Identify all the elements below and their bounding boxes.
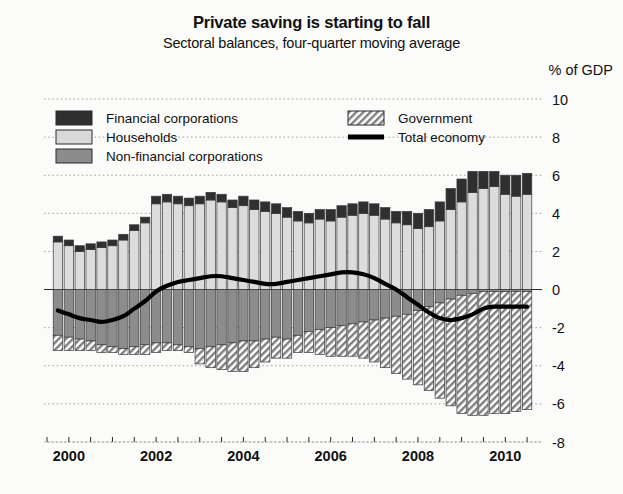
bar-segment-government-13 (195, 349, 204, 364)
bar-segment-financial-5 (108, 240, 117, 246)
bar-segment-financial-18 (250, 200, 259, 210)
bar-segment-households-18 (250, 210, 259, 290)
bar-segment-households-12 (184, 206, 193, 290)
x-tick-label-2010: 2010 (489, 448, 521, 464)
bar-segment-government-20 (271, 337, 280, 358)
bar-segment-government-25 (326, 328, 335, 357)
y-tick-label-10: 10 (552, 92, 568, 108)
bar-segment-government-28 (359, 322, 368, 358)
bar-segment-nonfinancial-4 (97, 290, 106, 345)
bar-segment-government-32 (402, 314, 411, 379)
bar-segment-nonfinancial-30 (381, 290, 390, 319)
bar-segment-nonfinancial-37 (457, 290, 466, 296)
bar-segment-households-1 (64, 246, 73, 290)
bar-segment-households-20 (271, 213, 280, 289)
bar-segment-households-8 (141, 223, 150, 290)
legend-label-nonfinancial: Non-financial corporations (106, 149, 263, 164)
bar-segment-financial-42 (511, 175, 520, 196)
bar-segment-financial-31 (391, 211, 400, 222)
legend-swatch-households (56, 130, 92, 144)
bar-segment-government-22 (293, 335, 302, 352)
bar-segment-government-3 (86, 341, 95, 351)
bar-segment-nonfinancial-22 (293, 290, 302, 336)
bar-segment-financial-4 (97, 242, 106, 248)
legend-label-government: Government (398, 111, 473, 126)
bar-segment-financial-40 (490, 171, 499, 186)
bar-segment-financial-33 (413, 213, 422, 228)
bar-segment-households-2 (75, 251, 84, 289)
bar-segment-government-4 (97, 345, 106, 353)
bar-segment-households-41 (501, 194, 510, 289)
bar-segment-nonfinancial-27 (348, 290, 357, 324)
bar-segment-households-33 (413, 229, 422, 290)
bar-segment-households-43 (522, 194, 531, 289)
bar-segment-government-34 (424, 307, 433, 391)
bar-segment-government-29 (370, 320, 379, 362)
bar-segment-households-11 (173, 204, 182, 290)
bar-segment-government-17 (239, 341, 248, 371)
bar-segment-nonfinancial-15 (217, 290, 226, 345)
bar-segment-government-16 (228, 343, 237, 372)
bar-segment-households-9 (151, 204, 160, 290)
bar-segment-nonfinancial-35 (435, 290, 444, 303)
bar-segment-government-0 (53, 335, 62, 350)
bar-segment-financial-28 (359, 202, 368, 213)
bar-segment-households-35 (435, 221, 444, 290)
bar-segment-financial-36 (446, 189, 455, 210)
y-tick-label--4: -4 (552, 358, 565, 374)
y-tick-label--8: -8 (552, 435, 565, 451)
bar-segment-financial-7 (130, 225, 139, 231)
bar-segment-nonfinancial-24 (315, 290, 324, 330)
bar-segment-financial-8 (141, 217, 150, 223)
bar-segment-government-31 (391, 316, 400, 373)
bar-segment-government-27 (348, 324, 357, 356)
bar-segment-households-6 (119, 240, 128, 290)
bar-segment-government-43 (522, 291, 531, 409)
bar-segment-financial-1 (64, 240, 73, 246)
bar-segment-financial-27 (348, 204, 357, 215)
bar-segment-financial-13 (195, 196, 204, 204)
legend-label-total: Total economy (398, 130, 485, 145)
bar-segment-government-42 (511, 291, 520, 411)
bar-segment-nonfinancial-26 (337, 290, 346, 326)
legend-swatch-financial (56, 111, 92, 125)
bar-segment-nonfinancial-3 (86, 290, 95, 341)
y-tick-label-8: 8 (552, 130, 560, 146)
bar-segment-financial-37 (457, 179, 466, 202)
bar-segment-financial-24 (315, 210, 324, 220)
bar-segment-financial-16 (228, 200, 237, 208)
bar-segment-households-24 (315, 219, 324, 290)
bar-segment-households-34 (424, 227, 433, 290)
bar-segment-households-3 (86, 250, 95, 290)
bar-segment-financial-3 (86, 244, 95, 250)
bar-segment-financial-25 (326, 210, 335, 221)
bar-segment-households-30 (381, 219, 390, 290)
bar-segment-nonfinancial-21 (282, 290, 291, 340)
bar-segment-government-11 (173, 345, 182, 351)
bar-segment-households-42 (511, 196, 520, 289)
bar-segment-financial-6 (119, 234, 128, 240)
bar-segment-nonfinancial-38 (468, 290, 477, 294)
bar-segment-households-10 (162, 202, 171, 290)
x-tick-label-2000: 2000 (53, 448, 85, 464)
bar-segment-nonfinancial-14 (206, 290, 215, 347)
bar-segment-government-1 (64, 337, 73, 350)
bar-segment-financial-23 (304, 213, 313, 223)
bar-segment-nonfinancial-28 (359, 290, 368, 322)
bar-segment-nonfinancial-20 (271, 290, 280, 338)
bar-segment-households-31 (391, 223, 400, 290)
bar-segment-financial-22 (293, 211, 302, 221)
bar-segment-government-9 (151, 343, 160, 353)
bar-segment-government-37 (457, 295, 466, 413)
bar-segment-government-6 (119, 349, 128, 355)
bar-segment-financial-20 (271, 204, 280, 214)
bar-segment-financial-38 (468, 171, 477, 192)
bar-segment-financial-9 (151, 196, 160, 204)
bar-segment-government-18 (250, 341, 259, 368)
legend-label-financial: Financial corporations (106, 111, 238, 126)
bar-segment-government-15 (217, 345, 226, 370)
bar-segment-nonfinancial-9 (151, 290, 160, 343)
y-tick-label--2: -2 (552, 320, 565, 336)
legend-label-households: Households (106, 130, 178, 145)
bar-segment-financial-39 (479, 171, 488, 188)
